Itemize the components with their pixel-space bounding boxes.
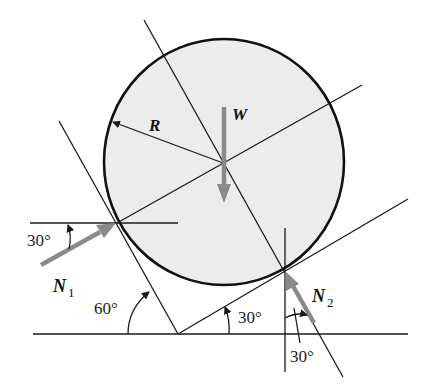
angle-arc-n1 [68,225,70,249]
angle-arc-left-wall [128,292,149,334]
angle-n1-label: 30° [27,231,51,250]
angle-n2-label: 30° [290,347,314,366]
normal-force-1-label: N [52,276,67,296]
angle-n2-tick [294,308,300,343]
cylinder-in-v-groove-diagram: R W N 1 30° N 2 30° 60° 30° [0,0,432,391]
weight-label: W [232,105,249,124]
angle-arc-right-wall [225,307,229,334]
normal-force-2-label: N [311,286,326,306]
normal-force-2-subscript: 2 [327,295,334,310]
radius-label: R [148,116,160,135]
angle-left-wall-label: 60° [94,299,118,318]
normal-force-1-subscript: 1 [68,285,75,300]
angle-right-wall-label: 30° [238,308,262,327]
